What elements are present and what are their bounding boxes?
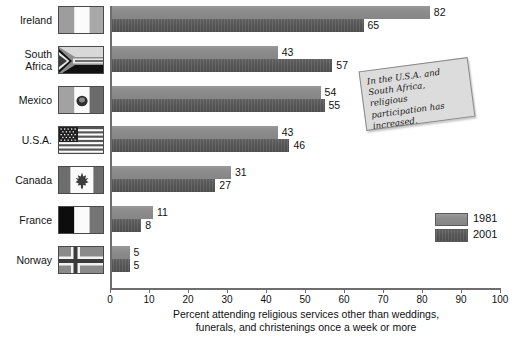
x-tick bbox=[188, 288, 189, 293]
bar-value-label: 55 bbox=[329, 99, 341, 112]
bar-1981 bbox=[110, 6, 430, 19]
bar-value-label: 46 bbox=[293, 139, 305, 152]
country-label-line: South bbox=[0, 49, 52, 61]
x-tick-label: 100 bbox=[485, 294, 515, 305]
x-tick bbox=[227, 288, 228, 293]
country-label-line: Africa bbox=[0, 61, 52, 73]
country-label-line: Ireland bbox=[0, 15, 52, 27]
x-axis-title-line-1: Percent attending religious services oth… bbox=[110, 308, 502, 321]
country-label: Mexico bbox=[0, 95, 52, 107]
bar-2001 bbox=[110, 139, 289, 152]
country-label: Ireland bbox=[0, 15, 52, 27]
bar-1981 bbox=[110, 206, 153, 219]
bar-2001 bbox=[110, 19, 364, 32]
country-label: U.S.A. bbox=[0, 135, 52, 147]
bar-1981 bbox=[110, 46, 278, 59]
x-tick-label: 50 bbox=[290, 294, 320, 305]
legend-label: 2001 bbox=[473, 228, 497, 240]
x-axis-title: Percent attending religious services oth… bbox=[110, 308, 502, 333]
x-tick bbox=[461, 288, 462, 293]
country-label: Canada bbox=[0, 175, 52, 187]
bar-value-label: 54 bbox=[325, 86, 337, 99]
x-tick bbox=[383, 288, 384, 293]
religious-attendance-bar-chart: Ireland 8265SouthAfrica 4357Mexico 5455U… bbox=[0, 0, 520, 338]
bar-value-label: 43 bbox=[282, 46, 294, 59]
callout-box: In the U.S.A. and South Africa, religiou… bbox=[359, 57, 476, 131]
bar-2001 bbox=[110, 179, 215, 192]
flag-usa-icon bbox=[58, 126, 104, 154]
bar-2001 bbox=[110, 259, 130, 272]
chart-row: U.S.A. bbox=[0, 126, 520, 164]
flag-france-icon bbox=[58, 206, 104, 234]
x-tick bbox=[500, 288, 501, 293]
country-label: France bbox=[0, 215, 52, 227]
flag-south-africa-icon bbox=[58, 46, 104, 74]
x-tick-label: 20 bbox=[173, 294, 203, 305]
legend-swatch-2001 bbox=[435, 229, 468, 242]
x-tick bbox=[110, 288, 111, 293]
bar-1981 bbox=[110, 86, 321, 99]
bar-value-label: 57 bbox=[336, 59, 348, 72]
flag-mexico-icon bbox=[58, 86, 104, 114]
x-tick bbox=[422, 288, 423, 293]
x-tick-label: 40 bbox=[251, 294, 281, 305]
chart-row: Ireland 8265 bbox=[0, 6, 520, 44]
bar-value-label: 31 bbox=[235, 166, 247, 179]
country-label-line: Mexico bbox=[0, 95, 52, 107]
chart-row: Canada 3127 bbox=[0, 166, 520, 204]
country-label-line: U.S.A. bbox=[0, 135, 52, 147]
x-tick-label: 80 bbox=[407, 294, 437, 305]
x-tick-label: 60 bbox=[329, 294, 359, 305]
x-tick-label: 70 bbox=[368, 294, 398, 305]
x-tick bbox=[344, 288, 345, 293]
bar-1981 bbox=[110, 246, 130, 259]
y-axis-line bbox=[110, 6, 112, 290]
bar-value-label: 65 bbox=[368, 19, 380, 32]
x-tick-label: 30 bbox=[212, 294, 242, 305]
bar-value-label: 11 bbox=[157, 206, 168, 219]
bar-1981 bbox=[110, 126, 278, 139]
bar-2001 bbox=[110, 219, 141, 232]
country-label-line: Canada bbox=[0, 175, 52, 187]
chart-row: Norway 55 bbox=[0, 246, 520, 284]
bar-2001 bbox=[110, 99, 325, 112]
x-tick-label: 0 bbox=[95, 294, 125, 305]
bar-1981 bbox=[110, 166, 231, 179]
country-label-line: Norway bbox=[0, 255, 52, 267]
legend-swatch-1981 bbox=[435, 213, 468, 226]
bar-value-label: 27 bbox=[219, 179, 231, 192]
country-label-line: France bbox=[0, 215, 52, 227]
country-label: SouthAfrica bbox=[0, 49, 52, 72]
bar-value-label: 5 bbox=[134, 259, 140, 272]
bar-value-label: 82 bbox=[434, 6, 446, 19]
flag-ireland-icon bbox=[58, 6, 104, 34]
x-tick bbox=[266, 288, 267, 293]
x-tick-label: 90 bbox=[446, 294, 476, 305]
bar-value-label: 8 bbox=[145, 219, 151, 232]
country-label: Norway bbox=[0, 255, 52, 267]
x-tick bbox=[149, 288, 150, 293]
legend-label: 1981 bbox=[473, 212, 497, 224]
bar-value-label: 43 bbox=[282, 126, 294, 139]
bar-2001 bbox=[110, 59, 332, 72]
x-tick bbox=[305, 288, 306, 293]
flag-norway-icon bbox=[58, 246, 104, 274]
x-tick-label: 10 bbox=[134, 294, 164, 305]
flag-canada-icon bbox=[58, 166, 104, 194]
bar-value-label: 5 bbox=[134, 246, 140, 259]
x-axis-title-line-2: funerals, and christenings once a week o… bbox=[110, 321, 502, 334]
